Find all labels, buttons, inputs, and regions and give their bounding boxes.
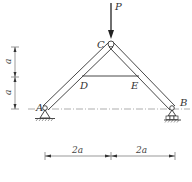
dim-label-2a-right: 2a xyxy=(135,145,147,155)
dim-label-a-lower: a xyxy=(3,90,13,95)
label-b: B xyxy=(179,97,187,108)
label-p: P xyxy=(114,1,122,12)
load-arrow-p xyxy=(108,3,114,39)
label-d: D xyxy=(79,80,88,91)
truss-diagram: P C D E A B xyxy=(0,0,192,182)
roller-support-b-icon xyxy=(164,106,181,123)
dim-label-a-upper: a xyxy=(3,59,13,64)
hinge-c-icon xyxy=(108,41,114,47)
dim-label-2a-left: 2a xyxy=(71,145,83,155)
label-a: A xyxy=(35,102,43,113)
label-e: E xyxy=(130,80,139,91)
label-c: C xyxy=(97,39,105,50)
